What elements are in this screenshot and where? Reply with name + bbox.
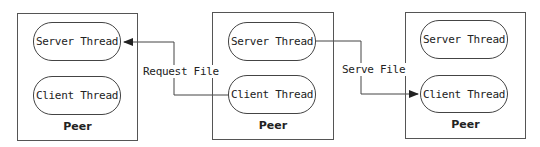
peer-3-server-thread: Server Thread: [420, 20, 508, 59]
p2p-diagram: Server Thread Client Thread Peer Server …: [0, 0, 540, 147]
serve-file-label: Serve File: [340, 63, 407, 76]
peer-2-label: Peer: [212, 119, 334, 132]
peer-3-label: Peer: [405, 118, 526, 131]
peer-1-label: Peer: [17, 120, 138, 133]
peer-1-server-thread: Server Thread: [33, 22, 121, 61]
peer-1-client-thread: Client Thread: [33, 76, 121, 115]
peer-2-server-thread: Server Thread: [228, 22, 316, 61]
peer-3-client-thread: Client Thread: [420, 75, 508, 113]
request-file-label: Request File: [141, 65, 221, 78]
peer-2-client-thread: Client Thread: [228, 75, 316, 114]
